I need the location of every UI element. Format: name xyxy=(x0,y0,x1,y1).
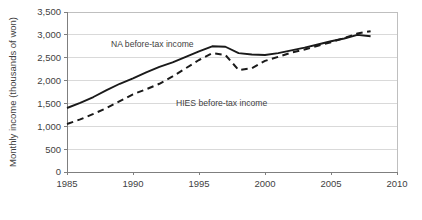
y-tick-label: 1,500 xyxy=(37,98,61,109)
x-tick-label: 2000 xyxy=(254,178,275,189)
y-tick-label-group: 05001,0001,5002,0002,5003,0003,500 xyxy=(37,6,61,177)
y-axis-title: Monthly income (thousands of won) xyxy=(7,17,18,167)
x-tick-label: 1990 xyxy=(122,178,143,189)
x-tick-label: 1995 xyxy=(188,178,209,189)
y-tick-label: 1,000 xyxy=(37,121,61,132)
x-tick-label: 2010 xyxy=(386,178,407,189)
line-chart: 05001,0001,5002,0002,5003,0003,500 19851… xyxy=(0,0,422,220)
y-tick-label: 2,500 xyxy=(37,52,61,63)
chart-container: 05001,0001,5002,0002,5003,0003,500 19851… xyxy=(0,0,422,220)
y-tick-label: 0 xyxy=(56,166,61,177)
series-annotation: NA before-tax income xyxy=(111,39,194,49)
y-tick-label: 2,000 xyxy=(37,75,61,86)
series-annotation: HIES before-tax income xyxy=(176,98,267,108)
y-tick-label: 500 xyxy=(45,144,61,155)
y-tick-label: 3,500 xyxy=(37,6,61,17)
x-tick-label: 2005 xyxy=(320,178,341,189)
x-tick-label-group: 198519901995200020052010 xyxy=(56,178,407,189)
y-tick-label: 3,000 xyxy=(37,29,61,40)
x-tick-label: 1985 xyxy=(56,178,77,189)
